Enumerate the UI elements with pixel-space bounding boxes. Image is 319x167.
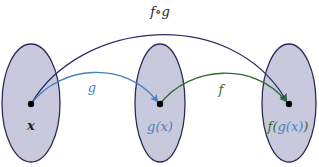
gx-label: g(x) [147,119,173,134]
point-x [28,101,34,107]
fgx-label: f(g(x)) [267,119,309,134]
g-label: g [88,80,96,95]
point-gx [157,101,163,107]
x-label: x [26,118,35,133]
f-label: f [218,82,226,97]
point-fgx [286,101,292,107]
composition-diagram: f∘g g f x g(x) f(g(x)) [0,0,319,167]
composite-label: f∘g [149,4,170,19]
